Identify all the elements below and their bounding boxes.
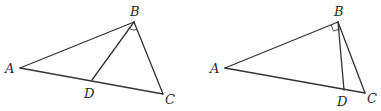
diagram-canvas: A B C D A B C D <box>0 0 381 111</box>
right-triangle-figure: A B C D <box>209 4 377 109</box>
label-c: C <box>165 92 175 107</box>
label-b: B <box>129 4 140 19</box>
segment-bd <box>338 22 344 90</box>
angle-mark-arc <box>129 29 137 31</box>
label-a: A <box>209 61 219 76</box>
label-b: B <box>333 4 344 19</box>
label-a: A <box>4 61 14 76</box>
segment-bc <box>134 22 163 94</box>
segment-bc <box>338 22 365 93</box>
label-d: D <box>336 94 348 109</box>
label-d: D <box>83 86 95 101</box>
label-c: C <box>367 91 377 106</box>
segment-ab <box>225 22 338 68</box>
left-triangle-figure: A B C D <box>4 4 175 107</box>
